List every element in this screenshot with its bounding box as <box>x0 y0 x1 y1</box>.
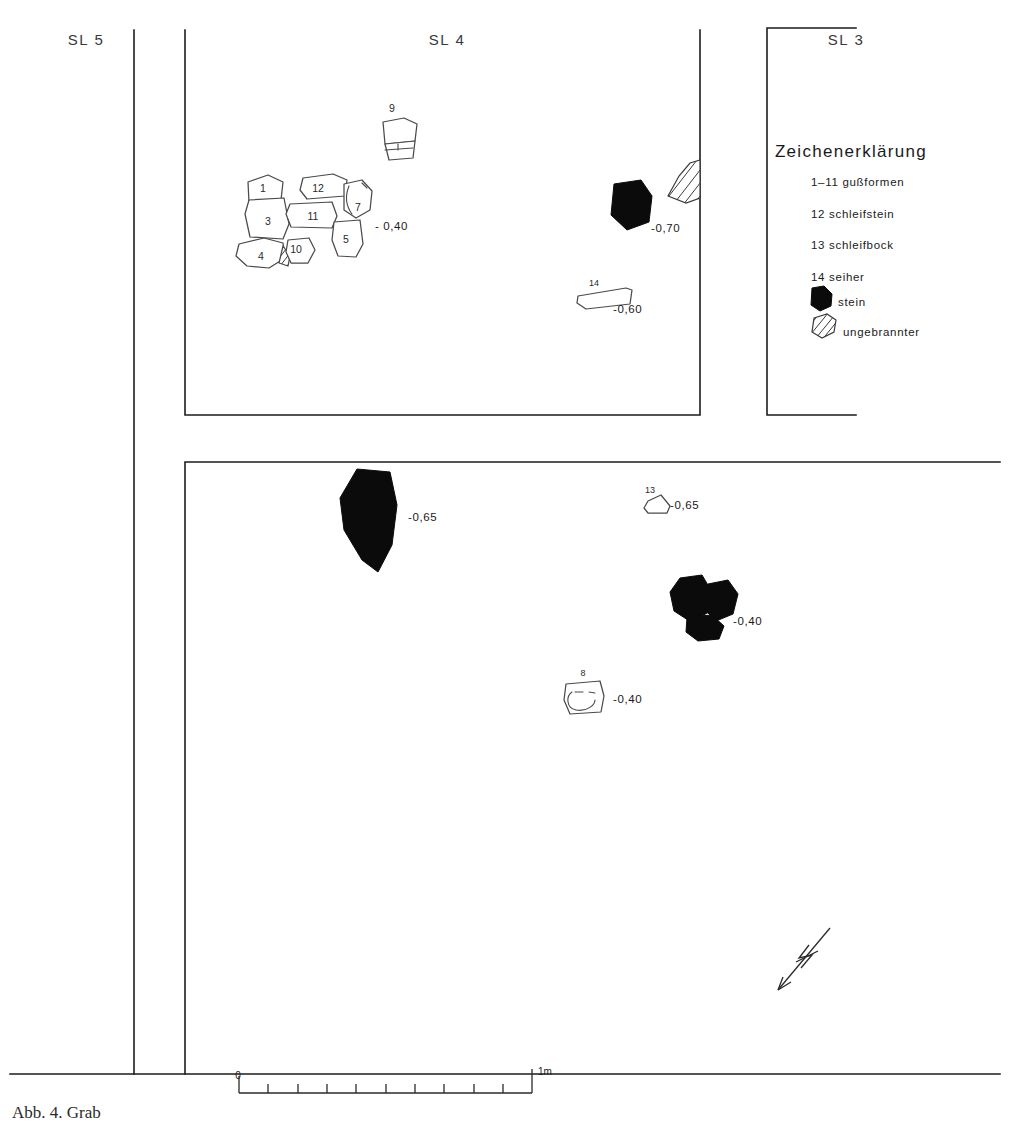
unfired-clay-upper <box>655 155 718 218</box>
legend: Zeichenerklärung 1–11 gußformen 12 schle… <box>775 142 927 344</box>
trench-box-lower <box>185 462 1000 1074</box>
legend-entry-unfired: ungebrannter <box>843 326 920 338</box>
artifact-13: 13 <box>644 485 670 513</box>
artifact-4-label: 4 <box>258 250 264 262</box>
section-label-sl4: SL 4 <box>429 31 466 48</box>
depth-label-stone-upper: -0,70 <box>651 222 680 234</box>
section-label-sl3: SL 3 <box>828 31 865 48</box>
artifact-12-label: 12 <box>312 182 324 194</box>
depth-label-stone-large: -0,65 <box>408 511 437 523</box>
scale-start-label: 0 <box>235 1070 241 1081</box>
unfired-symbol-icon <box>806 308 844 344</box>
scale-bar: 0 1m <box>235 1066 552 1093</box>
depth-label-artifact-13: -0,65 <box>670 499 699 511</box>
section-labels: SL 5 SL 4 SL 3 <box>68 31 865 48</box>
plan-drawing: SL 5 SL 4 SL 3 Zeichenerklärung 1–11 guß… <box>0 0 1015 1127</box>
artifact-8: 8 <box>564 668 604 714</box>
trench-box-sl3 <box>767 28 856 415</box>
artifact-7-label: 7 <box>355 201 361 213</box>
depth-label-artifact-14: -0,60 <box>613 303 642 315</box>
legend-entry-moulds: 1–11 gußformen <box>811 176 904 188</box>
stone-large-lower <box>340 469 397 572</box>
legend-title: Zeichenerklärung <box>775 142 927 161</box>
excavation-plan: SL 5 SL 4 SL 3 Zeichenerklärung 1–11 guß… <box>0 0 1015 1127</box>
figure-caption-text: Abb. 4. Grab <box>12 1103 101 1123</box>
artifact-3-label: 3 <box>265 215 271 227</box>
artifact-1-label: 1 <box>260 182 266 194</box>
figure-caption: Abb. 4. Grab <box>0 1103 1015 1127</box>
legend-entry-stone: stein <box>838 296 866 308</box>
depth-label-cluster: - 0,40 <box>375 220 408 232</box>
artifact-cluster: 1 3 4 10 <box>236 174 372 270</box>
artifact-5-label: 5 <box>343 233 349 245</box>
section-label-sl5: SL 5 <box>68 31 105 48</box>
artifact-9-label: 9 <box>389 102 395 114</box>
depth-label-artifact-8: -0,40 <box>613 693 642 705</box>
artifact-10-label: 10 <box>290 243 302 255</box>
legend-entry-grinding-block: 13 schleifbock <box>811 239 894 251</box>
artifact-8-label: 8 <box>580 668 585 678</box>
artifact-13-label: 13 <box>645 485 655 495</box>
stone-symbol-icon <box>811 286 832 311</box>
artifact-9: 9 <box>383 102 417 160</box>
depth-label-stone-cluster: -0,40 <box>733 615 762 627</box>
stone-cluster-mid <box>670 575 738 641</box>
legend-entry-strainer: 14 seiher <box>811 271 865 283</box>
artifact-14-label: 14 <box>589 278 599 288</box>
north-arrow <box>778 928 830 990</box>
artifact-11-label: 11 <box>308 210 319 222</box>
legend-entry-whetstone: 12 schleifstein <box>811 208 894 220</box>
scale-end-label: 1m <box>538 1066 552 1077</box>
stone-upper <box>611 180 652 230</box>
